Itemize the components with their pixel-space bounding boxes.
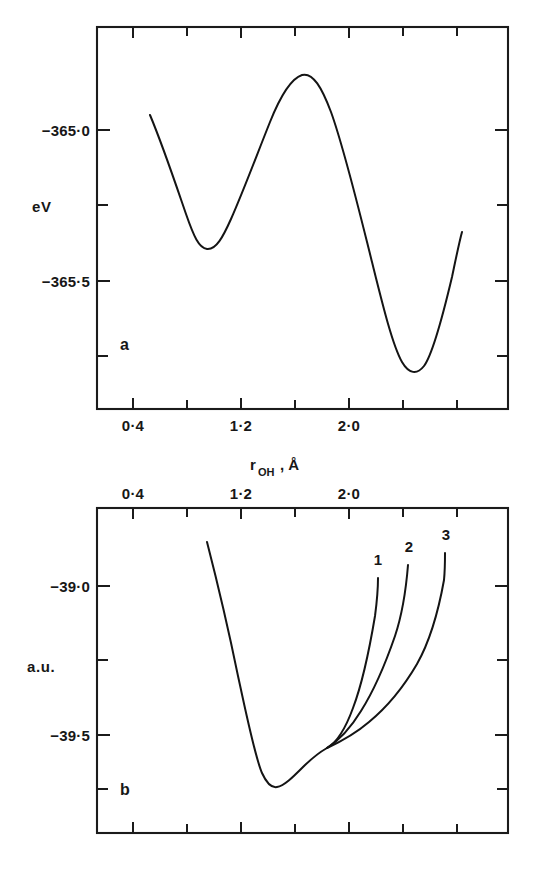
panel-b-curve-label-2: 2 — [405, 538, 413, 555]
panel-a-x-tick-label-1: 1·2 — [230, 417, 252, 434]
x-axis-label-r: r — [250, 456, 256, 473]
panel-b-x-tick-label-1: 1·2 — [230, 485, 252, 502]
panel-b-curve-label-3: 3 — [442, 526, 450, 543]
panel-a-x-tick-label-2: 2·0 — [338, 417, 360, 434]
panel-a-x-ticks-top — [133, 27, 457, 38]
figure-root: −365·0 −365·5 eV 0·4 1·2 2·0 a r OH , Å — [0, 0, 547, 869]
panel-b-x-ticks-top — [133, 508, 457, 519]
panel-b-frame — [97, 508, 508, 833]
panel-a: −365·0 −365·5 eV 0·4 1·2 2·0 a — [32, 27, 508, 434]
panel-b-curve-label-1: 1 — [374, 551, 382, 568]
panel-b-letter: b — [120, 781, 130, 798]
shared-x-axis-label: r OH , Å — [250, 456, 299, 478]
panel-b-y-ticks-right — [495, 586, 508, 789]
panel-b-curve-1 — [207, 542, 378, 787]
panel-b-y-axis-title: a.u. — [27, 658, 55, 675]
panel-b-curve-3 — [327, 553, 445, 748]
panel-b: 0·4 1·2 2·0 −39·0 −39·5 a.u. b 1 2 3 — [27, 485, 508, 833]
panel-a-potential-curve — [150, 75, 462, 372]
potential-energy-figure: −365·0 −365·5 eV 0·4 1·2 2·0 a r OH , Å — [0, 0, 547, 869]
panel-a-x-tick-label-0: 0·4 — [122, 417, 145, 434]
panel-b-x-tick-label-0: 0·4 — [122, 485, 145, 502]
panel-b-x-ticks-bottom — [133, 822, 457, 833]
panel-a-x-ticks — [133, 398, 457, 409]
panel-a-y-tick-label-0: −365·0 — [42, 122, 90, 139]
panel-b-y-ticks — [97, 586, 110, 789]
x-axis-label-unit: , Å — [280, 456, 299, 473]
x-axis-label-subscript: OH — [258, 466, 275, 478]
panel-b-y-tick-label-0: −39·0 — [50, 578, 90, 595]
panel-a-letter: a — [120, 336, 129, 353]
panel-a-y-ticks — [97, 130, 110, 356]
panel-b-x-tick-label-2: 2·0 — [338, 485, 360, 502]
panel-b-y-tick-label-1: −39·5 — [50, 727, 90, 744]
panel-a-y-axis-title: eV — [32, 198, 52, 215]
panel-a-frame — [97, 27, 508, 409]
panel-a-y-ticks-right — [495, 130, 508, 356]
panel-a-y-tick-label-1: −365·5 — [42, 273, 90, 290]
